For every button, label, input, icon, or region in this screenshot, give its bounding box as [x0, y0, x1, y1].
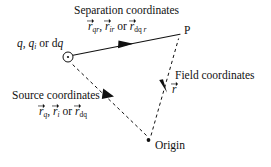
- source-coordinates-arrowhead: [102, 88, 114, 99]
- source-coordinates-symbols: rq, ri or rdq: [39, 105, 87, 119]
- vector-r-dqr-letter: r: [130, 20, 134, 32]
- point-p-label: P: [184, 24, 190, 36]
- vector-r-dqr-subscript-dq: dq: [134, 25, 142, 34]
- source-coordinates-title: Source coordinates: [12, 89, 100, 101]
- separation-coordinates-symbols: rqr, rir or rdq r: [88, 20, 147, 34]
- field-coordinates-symbol: r: [172, 83, 176, 95]
- charge-conjunction: or: [36, 37, 51, 49]
- origin-node-dot: [147, 138, 151, 142]
- field-coordinates-title: Field coordinates: [175, 69, 255, 81]
- vector-r-letter: r: [172, 83, 176, 95]
- vector-r-dq-subscript: dq: [79, 110, 87, 119]
- origin-label: Origin: [155, 139, 185, 151]
- charge-dq-q: q: [57, 37, 63, 49]
- separation-coordinates-title: Separation coordinates: [74, 4, 179, 16]
- vector-r-ir-letter: r: [105, 20, 109, 32]
- physics-coordinate-diagram: Separation coordinates rqr, rir or rdq r…: [0, 0, 271, 167]
- vector-r-dq: r: [75, 105, 79, 117]
- vector-r: r: [172, 83, 176, 95]
- vector-r-qr-letter: r: [88, 20, 92, 32]
- vector-r-q: r: [39, 105, 43, 117]
- vector-r-i: r: [53, 105, 57, 117]
- source-symbols-conjunction: or: [60, 105, 75, 117]
- charge-node-dot: [67, 56, 69, 58]
- vector-r-dqr-subscript-r: r: [142, 25, 147, 34]
- vector-r-qr: r: [88, 20, 92, 32]
- vector-r-ir: r: [105, 20, 109, 32]
- vector-r-q-letter: r: [39, 105, 43, 117]
- vector-r-dqr: r: [130, 20, 134, 32]
- separation-vector-arrowhead: [118, 40, 134, 48]
- separation-symbols-conjunction: or: [114, 20, 129, 32]
- field-coordinates-arrowhead: [159, 79, 167, 92]
- vector-r-dq-letter: r: [75, 105, 79, 117]
- vector-r-i-letter: r: [53, 105, 57, 117]
- charge-label: q, qi or dq: [17, 37, 63, 51]
